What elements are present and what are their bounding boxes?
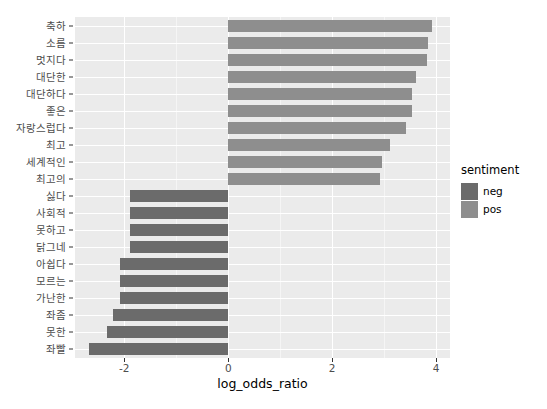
y-tick-label: 좌빨 xyxy=(46,344,66,355)
legend-item[interactable]: pos xyxy=(461,200,545,218)
legend-swatch-pos xyxy=(461,201,478,218)
y-tick-label: 소름 xyxy=(46,37,66,48)
gridline-minor-vertical xyxy=(280,17,281,358)
y-tick-mark xyxy=(69,247,73,248)
gridline-major-vertical xyxy=(332,17,333,358)
y-tick-label: 사회적 xyxy=(36,208,66,219)
bar[interactable] xyxy=(130,190,229,202)
x-tick-label: 2 xyxy=(329,363,336,374)
legend-swatch-neg xyxy=(461,183,478,200)
bar[interactable] xyxy=(228,37,428,49)
gridline-major-vertical xyxy=(124,17,125,358)
legend-item[interactable]: neg xyxy=(461,182,545,200)
y-tick-mark xyxy=(69,213,73,214)
legend-label: pos xyxy=(483,203,502,215)
y-tick-mark xyxy=(69,264,73,265)
bar[interactable] xyxy=(228,20,432,32)
legend-label: neg xyxy=(483,185,503,197)
y-tick-label: 최고 xyxy=(46,140,66,151)
y-tick-label: 좌좀 xyxy=(46,310,66,321)
y-tick-mark xyxy=(69,144,73,145)
y-tick-mark xyxy=(69,349,73,350)
y-tick-label: 못하고 xyxy=(36,225,66,236)
bar[interactable] xyxy=(228,139,390,151)
legend-items: negpos xyxy=(461,182,545,218)
y-tick-mark xyxy=(69,298,73,299)
x-tick-label: 0 xyxy=(225,363,232,374)
y-tick-label: 아쉽다 xyxy=(36,259,66,270)
bar[interactable] xyxy=(228,54,427,66)
y-tick-mark xyxy=(69,42,73,43)
y-tick-label: 모르는 xyxy=(36,276,66,287)
plot-panel xyxy=(75,17,450,358)
bar[interactable] xyxy=(228,105,412,117)
gridline-minor-vertical xyxy=(384,17,385,358)
y-tick-label: 최고의 xyxy=(36,174,66,185)
log-odds-ratio-bar-chart: 축하소름멋지다대단한대단하다좋은자랑스럽다최고세계적인최고의싫다사회적못하고닭그… xyxy=(0,0,547,409)
legend-key xyxy=(461,183,478,200)
y-tick-label: 가난한 xyxy=(36,293,66,304)
y-tick-mark xyxy=(69,93,73,94)
gridline-major-vertical xyxy=(436,17,437,358)
bar[interactable] xyxy=(228,122,406,134)
y-axis: 축하소름멋지다대단한대단하다좋은자랑스럽다최고세계적인최고의싫다사회적못하고닭그… xyxy=(0,17,75,358)
y-tick-mark xyxy=(69,59,73,60)
bar[interactable] xyxy=(113,309,228,321)
bar[interactable] xyxy=(130,224,229,236)
legend: sentiment negpos xyxy=(461,163,545,218)
y-tick-label: 못한 xyxy=(46,327,66,338)
y-tick-label: 축하 xyxy=(46,20,66,31)
y-tick-label: 좋은 xyxy=(46,106,66,117)
bar[interactable] xyxy=(228,156,382,168)
y-tick-mark xyxy=(69,332,73,333)
y-tick-label: 대단하다 xyxy=(26,88,66,99)
y-tick-label: 싫다 xyxy=(46,191,66,202)
y-tick-mark xyxy=(69,230,73,231)
y-tick-mark xyxy=(69,25,73,26)
bar[interactable] xyxy=(130,241,229,253)
bar[interactable] xyxy=(120,275,228,287)
y-tick-mark xyxy=(69,161,73,162)
gridline-major-vertical xyxy=(228,17,229,358)
y-tick-label: 세계적인 xyxy=(26,157,66,168)
y-tick-label: 닭그네 xyxy=(36,242,66,253)
y-tick-label: 멋지다 xyxy=(36,54,66,65)
bar[interactable] xyxy=(120,292,228,304)
bar[interactable] xyxy=(228,173,380,185)
legend-title: sentiment xyxy=(461,163,545,177)
x-tick-label: -2 xyxy=(119,363,129,374)
y-tick-label: 대단한 xyxy=(36,71,66,82)
bar[interactable] xyxy=(89,343,229,355)
x-tick-label: 4 xyxy=(433,363,440,374)
x-axis-title: log_odds_ratio xyxy=(75,376,450,391)
y-tick-mark xyxy=(69,196,73,197)
bar[interactable] xyxy=(120,258,228,270)
y-tick-mark xyxy=(69,76,73,77)
y-tick-mark xyxy=(69,110,73,111)
y-tick-label: 자랑스럽다 xyxy=(16,123,66,134)
y-tick-mark xyxy=(69,127,73,128)
y-tick-mark xyxy=(69,178,73,179)
bar[interactable] xyxy=(107,326,228,338)
legend-key xyxy=(461,201,478,218)
bar[interactable] xyxy=(228,71,416,83)
y-tick-mark xyxy=(69,281,73,282)
gridline-minor-vertical xyxy=(176,17,177,358)
y-tick-mark xyxy=(69,315,73,316)
bar[interactable] xyxy=(130,207,229,219)
bar[interactable] xyxy=(228,88,412,100)
